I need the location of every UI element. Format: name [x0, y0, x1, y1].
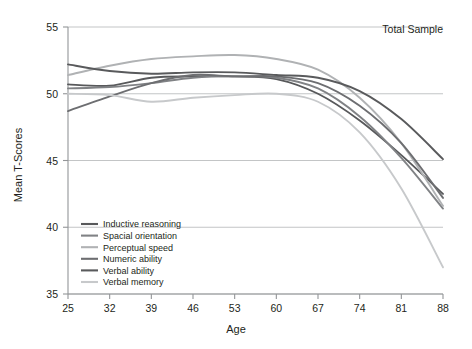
legend-label: Verbal memory — [103, 277, 164, 287]
legend-label: Spacial orientation — [103, 231, 177, 241]
y-axis-title: Mean T-Scores — [12, 127, 24, 202]
x-axis-title: Age — [226, 323, 246, 335]
y-tick-label: 35 — [46, 288, 58, 300]
chart-canvas: 25323946536067748188 3540455055 Age Mean… — [0, 0, 472, 349]
x-tick-label: 88 — [437, 302, 449, 314]
y-tick-label: 45 — [46, 155, 58, 167]
x-tick-label: 60 — [270, 302, 282, 314]
y-tick-label: 50 — [46, 88, 58, 100]
legend-label: Perceptual speed — [103, 243, 173, 253]
x-tick-label: 39 — [145, 302, 157, 314]
y-tick-label: 40 — [46, 221, 58, 233]
x-tick-label: 81 — [395, 302, 407, 314]
x-tick-label: 46 — [187, 302, 199, 314]
total-sample-annotation: Total Sample — [382, 23, 443, 35]
legend-label: Verbal ability — [103, 266, 155, 276]
y-tick-labels: 3540455055 — [46, 21, 58, 300]
legend: Inductive reasoningSpacial orientationPe… — [81, 219, 181, 287]
x-tick-labels: 25323946536067748188 — [62, 302, 449, 314]
x-tick-label: 32 — [104, 302, 116, 314]
x-tick-label: 53 — [229, 302, 241, 314]
x-tick-label: 67 — [312, 302, 324, 314]
line-chart: 25323946536067748188 3540455055 Age Mean… — [0, 0, 472, 349]
series-line — [68, 64, 443, 159]
y-tick-label: 55 — [46, 21, 58, 33]
x-tick-label: 25 — [62, 302, 74, 314]
series-line — [68, 76, 443, 208]
x-tick-label: 74 — [354, 302, 366, 314]
series-line — [68, 93, 443, 267]
legend-label: Numeric ability — [103, 254, 163, 264]
legend-label: Inductive reasoning — [103, 219, 181, 229]
